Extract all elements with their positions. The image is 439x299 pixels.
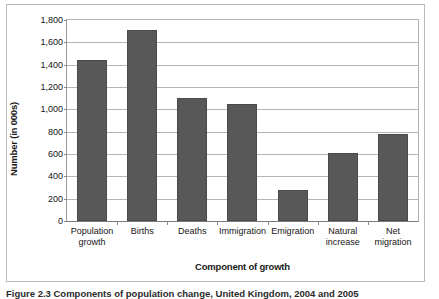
bar[interactable] xyxy=(127,30,157,221)
x-axis-tick-mark xyxy=(117,221,118,225)
bar-slot xyxy=(67,20,117,221)
bar[interactable] xyxy=(177,98,207,221)
x-axis-tick-mark xyxy=(318,221,319,225)
bars-layer xyxy=(67,20,418,221)
y-axis-tick-label: 1,400 xyxy=(40,60,63,70)
bar-slot xyxy=(167,20,217,221)
bar-slot xyxy=(368,20,418,221)
figure-caption: Figure 2.3 Components of population chan… xyxy=(6,288,433,299)
bar-slot xyxy=(318,20,368,221)
x-axis-tick-mark xyxy=(268,221,269,225)
y-axis-tick-label: 1,000 xyxy=(40,104,63,114)
y-axis-tick-label: 1,600 xyxy=(40,37,63,47)
plot-area: 02004006008001,0001,2001,4001,6001,800 P… xyxy=(66,19,419,222)
x-axis-title: Component of growth xyxy=(66,261,419,272)
y-axis-tick-label: 200 xyxy=(48,194,63,204)
y-axis-tick-label: 600 xyxy=(48,149,63,159)
y-axis-tick-label: 0 xyxy=(58,216,63,226)
bar[interactable] xyxy=(227,104,257,221)
bar-slot xyxy=(117,20,167,221)
chart-frame: Number (in 000s) 02004006008001,0001,200… xyxy=(6,4,425,282)
x-axis-tick-mark xyxy=(368,221,369,225)
x-axis-category-label: Net migration xyxy=(362,226,424,247)
y-axis-tick-label: 1,200 xyxy=(40,82,63,92)
x-axis-tick-mark xyxy=(167,221,168,225)
bar[interactable] xyxy=(278,190,308,221)
bar[interactable] xyxy=(77,60,107,221)
y-axis-tick-label: 800 xyxy=(48,127,63,137)
y-axis-title: Number (in 000s) xyxy=(7,39,21,239)
y-axis-tick-mark xyxy=(64,221,67,222)
y-axis-tick-label: 400 xyxy=(48,171,63,181)
bar[interactable] xyxy=(328,153,358,221)
y-axis-tick-label: 1,800 xyxy=(40,15,63,25)
bar-slot xyxy=(268,20,318,221)
bar[interactable] xyxy=(378,134,408,221)
x-axis-tick-mark xyxy=(217,221,218,225)
bar-slot xyxy=(217,20,267,221)
